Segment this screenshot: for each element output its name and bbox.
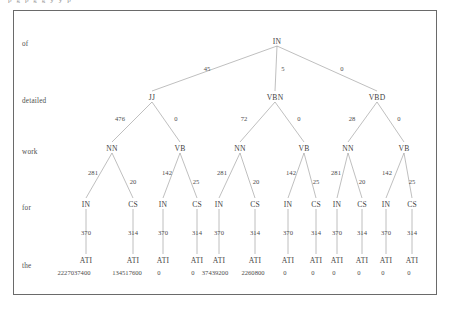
page-caption-fragment: p g p g g y y p — [0, 0, 449, 8]
tree-node-in: IN — [159, 200, 167, 209]
leaf-count-value: 0 — [381, 269, 384, 276]
tree-node-cs: CS — [250, 200, 260, 209]
tree-node-ati: ATI — [380, 256, 392, 265]
edge-weight-label: 142 — [162, 169, 172, 176]
edge-weight-label: 25 — [409, 178, 416, 185]
tree-node-ati: ATI — [157, 256, 169, 265]
edge-weight-label: 142 — [286, 169, 296, 176]
edge-weight-label: 281 — [217, 169, 227, 176]
edge-weight-label: 314 — [128, 229, 138, 236]
leaf-count-value: 2227037400 — [58, 269, 91, 276]
edge-weight-label: 5 — [281, 65, 284, 72]
tree-node-in: IN — [82, 200, 90, 209]
tree-node-nn: NN — [342, 144, 353, 153]
tree-node-ati: ATI — [249, 256, 261, 265]
edge-weight-label: 28 — [349, 115, 356, 122]
edge-weight-label: 142 — [382, 169, 392, 176]
row-label: detailed — [22, 97, 46, 105]
edge-weight-label: 314 — [357, 229, 367, 236]
edge-weight-label: 45 — [204, 65, 211, 72]
row-label: for — [22, 204, 31, 212]
tree-node-cs: CS — [357, 200, 367, 209]
tree-node-nn: NN — [234, 144, 245, 153]
edge-weight-label: 370 — [381, 229, 391, 236]
edge-weight-label: 370 — [332, 229, 342, 236]
tree-node-in: IN — [333, 200, 341, 209]
edge-weight-label: 314 — [192, 229, 202, 236]
leaf-count-value: 0 — [311, 269, 314, 276]
edge-weight-label: 370 — [158, 229, 168, 236]
tree-node-cs: CS — [192, 200, 202, 209]
tree-node-ati: ATI — [310, 256, 322, 265]
tree-node-in: IN — [215, 200, 223, 209]
tree-node-cs: CS — [311, 200, 321, 209]
leaf-count-value: 2260800 — [241, 269, 264, 276]
tree-node-vbn: VBN — [267, 93, 284, 102]
edge-weight-label: 370 — [81, 229, 91, 236]
edge-weight-label: 25 — [193, 178, 200, 185]
tree-node-ati: ATI — [406, 256, 418, 265]
tree-node-ati: ATI — [356, 256, 368, 265]
edge-weight-label: 20 — [359, 178, 366, 185]
tree-node-in: IN — [382, 200, 390, 209]
edge-weight-label: 281 — [331, 169, 341, 176]
tree-node-vb: VB — [299, 144, 310, 153]
leaf-count-value: 0 — [332, 269, 335, 276]
tree-node-vbd: VBD — [369, 93, 386, 102]
leaf-count-value: 0 — [191, 269, 194, 276]
leaf-count-value: 0 — [283, 269, 286, 276]
edge-weight-label: 476 — [115, 115, 125, 122]
tree-node-in: IN — [273, 37, 281, 46]
tree-node-ati: ATI — [213, 256, 225, 265]
edge-weight-label: 72 — [241, 115, 248, 122]
row-label: of — [22, 40, 28, 48]
tree-node-ati: ATI — [80, 256, 92, 265]
tree-node-cs: CS — [407, 200, 417, 209]
edge-weight-label: 0 — [340, 65, 343, 72]
tree-node-ati: ATI — [191, 256, 203, 265]
edge-weight-label: 370 — [283, 229, 293, 236]
edge-weight-label: 20 — [130, 178, 137, 185]
tree-node-cs: CS — [128, 200, 138, 209]
edge-weight-label: 0 — [397, 115, 400, 122]
edge-weight-label: 25 — [313, 178, 320, 185]
edge-weight-label: 281 — [88, 169, 98, 176]
edge-weight-label: 314 — [407, 229, 417, 236]
tree-node-ati: ATI — [282, 256, 294, 265]
figure-frame — [13, 10, 437, 295]
edge-weight-label: 20 — [253, 178, 260, 185]
tree-node-vb: VB — [175, 144, 186, 153]
leaf-count-value: 134517600 — [112, 269, 142, 276]
tree-node-in: IN — [284, 200, 292, 209]
row-label: work — [22, 148, 38, 156]
tree-node-jj: JJ — [149, 93, 155, 102]
edge-weight-label: 0 — [297, 115, 300, 122]
row-label: the — [22, 262, 31, 270]
tree-node-ati: ATI — [127, 256, 139, 265]
edge-weight-label: 314 — [311, 229, 321, 236]
caption-text: p g p g g y y p — [8, 0, 72, 4]
edge-weight-label: 370 — [214, 229, 224, 236]
leaf-count-value: 37439200 — [202, 269, 228, 276]
leaf-count-value: 0 — [157, 269, 160, 276]
leaf-count-value: 0 — [357, 269, 360, 276]
leaf-count-value: 0 — [407, 269, 410, 276]
tree-node-nn: NN — [106, 144, 117, 153]
tree-node-vb: VB — [399, 144, 410, 153]
tree-node-ati: ATI — [331, 256, 343, 265]
edge-weight-label: 0 — [174, 115, 177, 122]
edge-weight-label: 314 — [250, 229, 260, 236]
